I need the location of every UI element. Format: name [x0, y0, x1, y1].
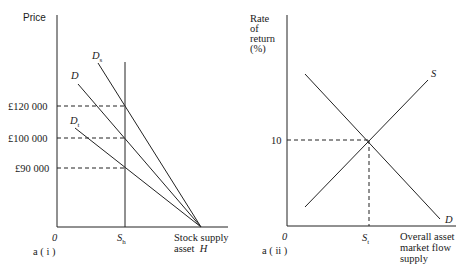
panel-label-ai: a ( i ) — [33, 246, 55, 257]
label-dt-sub: t — [78, 121, 80, 129]
label-ds-main: D — [92, 50, 100, 61]
panel-label-aii: a ( ii ) — [262, 245, 287, 256]
label-d-left: D — [71, 70, 79, 81]
tick-st: St — [362, 232, 369, 248]
label-dt: Dt — [70, 115, 80, 131]
left-x-axis-label-var: H — [200, 243, 208, 254]
supply-curve-s — [305, 80, 428, 207]
tick-sh: Sh — [117, 232, 126, 248]
demand-curve-d — [78, 84, 201, 227]
left-x-axis-label-asset: asset — [174, 243, 194, 254]
right-y-axis-label-4: (%) — [250, 43, 266, 54]
tick-rate-10: 10 — [271, 135, 282, 146]
left-x-axis-label-line1: Stock supply — [174, 232, 229, 243]
tick-100000: £100 000 — [8, 133, 47, 144]
tick-sh-sub: h — [122, 238, 126, 246]
left-x-axis-label-line2: asset H — [174, 243, 207, 254]
label-dt-main: D — [70, 115, 78, 126]
demand-curve-dt — [75, 128, 201, 227]
tick-120000: £120 000 — [8, 101, 47, 112]
left-origin: 0 — [52, 232, 57, 243]
left-y-axis-label: Price — [23, 12, 46, 23]
right-x-axis-label-3: supply — [400, 253, 428, 264]
demand-curve-right-d — [305, 74, 440, 219]
label-s: S — [431, 68, 436, 79]
demand-curve-ds — [98, 63, 201, 227]
right-x-axis-label-1: Overall asset — [400, 231, 455, 242]
tick-90000: £90 000 — [15, 163, 49, 174]
label-ds-sub: s — [100, 56, 103, 64]
right-x-axis-label-2: market flow — [400, 242, 451, 253]
tick-st-sub: t — [367, 238, 369, 246]
label-ds: Ds — [92, 50, 102, 66]
right-origin: 0 — [282, 231, 287, 242]
label-d-right: D — [445, 214, 453, 225]
